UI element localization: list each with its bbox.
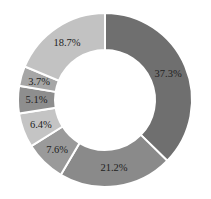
slice-label: 7.6% [46, 144, 68, 155]
slice-label: 6.4% [30, 119, 52, 130]
donut-slice [105, 13, 192, 161]
slice-label: 37.3% [155, 68, 182, 79]
slice-label: 21.2% [100, 162, 127, 173]
slice-label: 18.7% [53, 37, 80, 48]
donut-chart: 37.3%21.2%7.6%6.4%5.1%3.7%18.7% [0, 0, 211, 199]
slice-label: 5.1% [26, 94, 48, 105]
slice-label: 3.7% [28, 76, 50, 87]
